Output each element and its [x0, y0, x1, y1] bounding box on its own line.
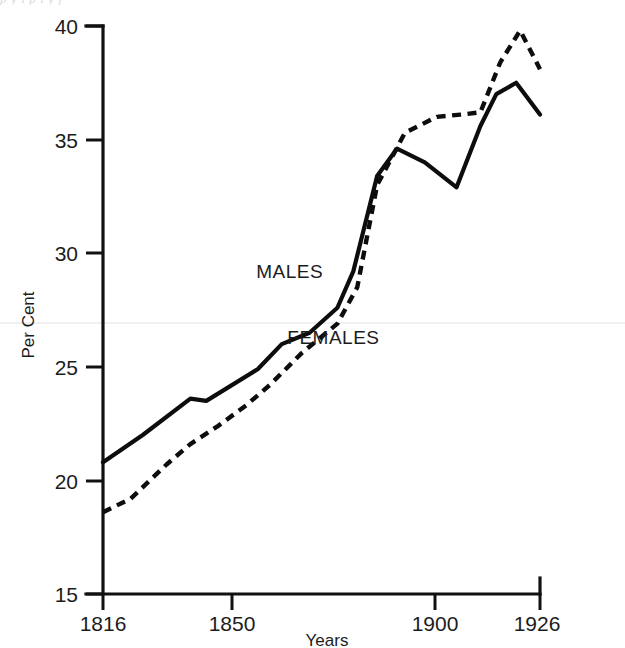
- y-axis-ticks: [86, 26, 103, 594]
- y-axis-tick-labels: 40 35 30 25 20 15: [55, 15, 78, 606]
- series-label-males: MALES: [256, 261, 323, 282]
- x-tick-label-1850: 1850: [209, 612, 256, 635]
- x-axis-title: Years: [306, 631, 349, 648]
- y-tick-label-25: 25: [55, 356, 78, 379]
- y-tick-label-20: 20: [55, 470, 78, 493]
- chart-figure: p y i p i y f 40: [0, 0, 625, 648]
- x-tick-label-1816: 1816: [80, 612, 127, 635]
- y-tick-label-35: 35: [55, 129, 78, 152]
- x-axis-ticks: [103, 594, 540, 610]
- x-tick-label-1900: 1900: [412, 612, 459, 635]
- series-label-females: FEMALES: [287, 327, 379, 348]
- y-tick-label-30: 30: [55, 242, 78, 265]
- y-tick-label-15: 15: [55, 583, 78, 606]
- y-axis-title: Per Cent: [19, 291, 38, 358]
- x-tick-label-1926: 1926: [514, 612, 561, 635]
- line-chart: 40 35 30 25 20 15 1816 1850 1900 1926 Pe…: [0, 0, 625, 648]
- y-tick-label-40: 40: [55, 15, 78, 38]
